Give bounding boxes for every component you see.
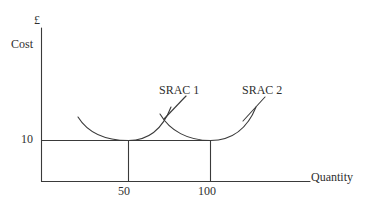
srac2-curve (160, 107, 256, 141)
y-tick-label-10: 10 (21, 133, 33, 145)
x-tick-label-50: 50 (118, 185, 130, 197)
srac1-curve (78, 107, 171, 141)
srac2-leader-line (243, 97, 265, 121)
cropped-header-text (62, 0, 64, 7)
y-axis-label-cost: Cost (11, 38, 33, 50)
curve-label-srac-1: SRAC 1 (159, 84, 199, 96)
x-tick-label-100: 100 (198, 185, 216, 197)
x-axis-label-quantity: Quantity (311, 171, 353, 183)
srac1-leader-line (164, 96, 186, 119)
curve-label-srac-2: SRAC 2 (242, 84, 282, 96)
currency-symbol-label: £ (34, 14, 40, 26)
